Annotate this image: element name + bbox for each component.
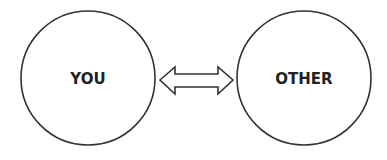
node-you: YOU [21,11,155,145]
double-arrow-icon [160,67,233,94]
label-other: OTHER [275,70,333,88]
label-you: YOU [69,70,105,88]
node-other: OTHER [237,11,371,145]
relationship-diagram: YOU OTHER [0,0,387,160]
